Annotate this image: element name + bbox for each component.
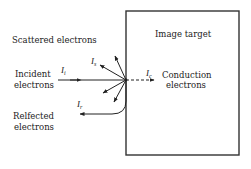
impact-point — [125, 79, 128, 82]
scattered-current-symbol: Is — [90, 56, 97, 67]
reflected-beam-path — [80, 80, 126, 114]
reflected-electrons-label-line2: electrons — [14, 122, 54, 132]
incident-electrons-label-line1: Incident — [15, 69, 51, 79]
conduction-electrons-label-line2: electrons — [166, 80, 206, 90]
image-target-label: Image target — [155, 29, 212, 39]
conduction-electrons-label-line1: Conduction — [162, 70, 212, 80]
scattered-electrons-label: Scattered electrons — [12, 35, 97, 45]
reflected-current-symbol: Ir — [76, 99, 83, 110]
incident-current-symbol: Ii — [60, 65, 66, 76]
reflected-electrons-label-line1: Relfected — [13, 111, 55, 121]
incident-electrons-label-line2: electrons — [14, 80, 54, 90]
electron-diagram: Image target Scattered electrons Inciden… — [0, 0, 251, 169]
